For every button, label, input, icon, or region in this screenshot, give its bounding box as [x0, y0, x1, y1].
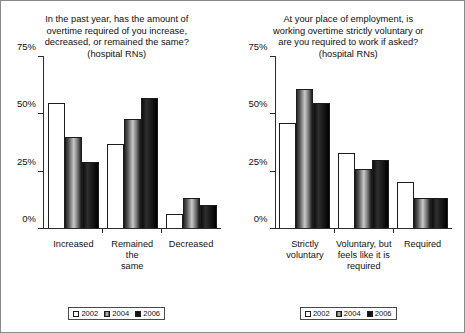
title-line: decreased, or remained the same? — [11, 37, 223, 49]
bar-groups-left — [44, 57, 221, 228]
bar — [355, 169, 372, 228]
cat-line: Decreased — [163, 239, 220, 250]
x-category-labels-left: Increased Remained the same Decreased — [44, 239, 221, 272]
legend-swatch-icon — [135, 311, 141, 317]
bar-group — [276, 57, 335, 228]
title-line: At your place of employment, is — [243, 14, 455, 26]
bar-group — [162, 57, 221, 228]
axes-left: 0% 25% 50% 75% — [43, 57, 221, 229]
bar-group — [334, 57, 393, 228]
cat-line: Required — [394, 239, 451, 250]
x-tick — [334, 228, 335, 233]
legend-label: 2004 — [112, 309, 129, 318]
x-category-label: Strictly voluntary — [276, 239, 335, 272]
bar — [313, 103, 330, 228]
bar — [431, 198, 448, 228]
legend-label: 2004 — [344, 309, 361, 318]
bar — [372, 160, 389, 228]
cat-line: Strictly — [277, 239, 334, 250]
plot-area-left: 0% 25% 50% 75% Increased Remaine — [5, 49, 225, 239]
legend-swatch-icon — [305, 311, 311, 317]
bar — [48, 103, 65, 228]
axes-right: 0% 25% 50% 75% — [275, 57, 453, 229]
legend-label: 2002 — [81, 309, 98, 318]
legend-right: 2002 2004 2006 — [233, 307, 465, 320]
legend-swatch-icon — [367, 311, 373, 317]
cat-line: voluntary — [277, 250, 334, 261]
bar — [397, 182, 414, 228]
x-category-label: Decreased — [162, 239, 221, 272]
figure-container: In the past year, has the amount of over… — [0, 0, 465, 333]
bar-group — [44, 57, 103, 228]
bar — [296, 89, 313, 228]
y-tick-label: 50% — [17, 98, 36, 109]
bar — [124, 119, 141, 228]
y-tick-label: 0% — [22, 213, 36, 224]
cat-line: Voluntary, but — [335, 239, 392, 250]
cat-line: Remained the — [104, 239, 161, 261]
legend-left: 2002 2004 2006 — [1, 307, 233, 320]
bar — [107, 144, 124, 228]
bar-groups-right — [276, 57, 453, 228]
y-tick — [270, 228, 276, 229]
legend-swatch-icon — [73, 311, 79, 317]
chart-panel-overtime-change: In the past year, has the amount of over… — [1, 1, 233, 332]
title-line: overtime required of you increase, — [11, 26, 223, 38]
x-category-label: Remained the same — [103, 239, 162, 272]
legend-item-2002: 2002 — [305, 309, 330, 318]
bar — [166, 214, 183, 228]
x-tick — [161, 228, 162, 233]
chart-panel-voluntary-required: At your place of employment, is working … — [233, 1, 465, 332]
cat-line: required — [335, 261, 392, 272]
x-category-label: Voluntary, but feels like it is required — [334, 239, 393, 272]
bar — [414, 198, 431, 228]
y-tick-label: 25% — [17, 155, 36, 166]
bar — [183, 198, 200, 228]
title-line: working overtime strictly voluntary or — [243, 26, 455, 38]
y-tick — [38, 228, 44, 229]
legend-swatch-icon — [336, 311, 342, 317]
bar — [65, 137, 82, 228]
legend-item-2002: 2002 — [73, 309, 98, 318]
x-tick — [393, 228, 394, 233]
legend-box: 2002 2004 2006 — [300, 307, 397, 320]
x-category-labels-right: Strictly voluntary Voluntary, but feels … — [276, 239, 453, 272]
cat-line: Increased — [45, 239, 102, 250]
legend-item-2004: 2004 — [104, 309, 129, 318]
legend-item-2006: 2006 — [135, 309, 160, 318]
y-tick-label: 75% — [17, 41, 36, 52]
chart-panels: In the past year, has the amount of over… — [1, 1, 464, 332]
legend-label: 2006 — [143, 309, 160, 318]
cat-line: feels like it is — [335, 250, 392, 261]
bar-group — [393, 57, 452, 228]
legend-box: 2002 2004 2006 — [68, 307, 165, 320]
plot-area-right: 0% 25% 50% 75% Strictly voluntary — [237, 49, 457, 239]
x-axis-line — [43, 228, 221, 229]
legend-swatch-icon — [104, 311, 110, 317]
legend-label: 2002 — [313, 309, 330, 318]
legend-item-2006: 2006 — [367, 309, 392, 318]
title-line: are you required to work if asked? — [243, 37, 455, 49]
y-tick-label: 25% — [248, 155, 267, 166]
y-tick-label: 75% — [248, 41, 267, 52]
y-tick-label: 0% — [254, 213, 268, 224]
bar — [82, 162, 99, 228]
title-line: In the past year, has the amount of — [11, 14, 223, 26]
x-tick — [102, 228, 103, 233]
legend-item-2004: 2004 — [336, 309, 361, 318]
x-category-label: Required — [393, 239, 452, 272]
bar — [141, 98, 158, 228]
cat-line: same — [104, 261, 161, 272]
y-tick-label: 50% — [248, 98, 267, 109]
x-axis-line — [275, 228, 453, 229]
x-category-label: Increased — [44, 239, 103, 272]
bar — [279, 123, 296, 228]
bar — [200, 205, 217, 228]
bar — [338, 153, 355, 228]
legend-label: 2006 — [375, 309, 392, 318]
bar-group — [103, 57, 162, 228]
